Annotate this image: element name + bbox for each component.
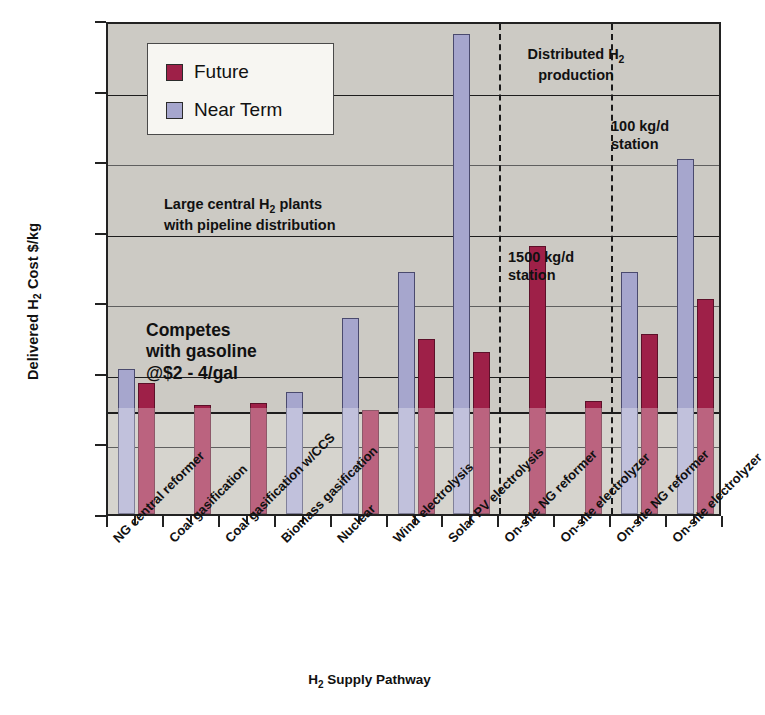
y-tick-12 [95, 92, 106, 94]
y-axis-title: Delivered H2 Cost $/kg [25, 171, 44, 431]
bar-near-term-5[interactable] [398, 272, 415, 514]
x-tick-5 [386, 516, 388, 527]
legend-label-near-term: Near Term [194, 99, 282, 121]
section-divider-2 [611, 24, 613, 514]
x-tick-11 [721, 516, 723, 527]
bar-lower-wash [118, 408, 135, 514]
y-tick-14 [95, 21, 106, 23]
y-tick-4 [95, 374, 106, 376]
annotation-station-100: 100 kg/d station [611, 118, 669, 153]
bar-future-7[interactable] [529, 246, 546, 514]
x-tick-7 [497, 516, 499, 527]
legend-swatch-near-term-icon [166, 102, 183, 119]
y-tick-6 [95, 303, 106, 305]
y-tick-8 [95, 233, 106, 235]
y-tick-0 [95, 515, 106, 517]
x-tick-8 [553, 516, 555, 527]
bar-near-term-3[interactable] [286, 392, 303, 514]
bar-future-5[interactable] [418, 339, 435, 514]
legend-label-future: Future [194, 61, 249, 83]
y-tick-10 [95, 162, 106, 164]
x-tick-0 [106, 516, 108, 527]
gridline-8 [108, 236, 719, 237]
bar-future-6[interactable] [473, 352, 490, 514]
bar-lower-wash [398, 408, 415, 514]
bar-future-9[interactable] [641, 334, 658, 514]
bar-future-10[interactable] [697, 299, 714, 514]
x-tick-2 [218, 516, 220, 527]
section-divider-1 [499, 24, 501, 514]
x-tick-6 [441, 516, 443, 527]
annotation-distributed-production: Distributed H2 production [501, 46, 651, 84]
bar-near-term-6[interactable] [453, 34, 470, 514]
x-axis-title: H2 Supply Pathway [0, 672, 739, 690]
x-tick-4 [330, 516, 332, 527]
annotation-competes-with-gasoline: Competes with gasoline @$2 - 4/gal [146, 320, 257, 384]
legend-item-near-term: Near Term [166, 91, 333, 129]
legend-swatch-future-icon [166, 64, 183, 81]
x-tick-9 [609, 516, 611, 527]
x-tick-1 [162, 516, 164, 527]
gridline-10 [108, 165, 719, 166]
y-tick-2 [95, 444, 106, 446]
chart-legend: Future Near Term [147, 43, 334, 135]
x-tick-3 [274, 516, 276, 527]
annotation-large-central: Large central H2 plants with pipeline di… [164, 196, 336, 234]
x-tick-10 [665, 516, 667, 527]
bar-near-term-0[interactable] [118, 369, 135, 514]
legend-item-future: Future [166, 53, 333, 91]
annotation-station-1500: 1500 kg/d station [508, 249, 574, 284]
